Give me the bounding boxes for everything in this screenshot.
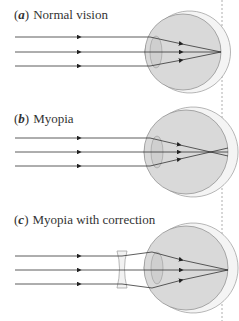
panel-c-myopia-with-correction: (c)Myopia with correction bbox=[14, 212, 238, 313]
panel-c-label: (c)Myopia with correction bbox=[14, 212, 156, 227]
panel-a-normal-vision: (a)Normal vision bbox=[14, 7, 231, 93]
panel-b-myopia: (b)Myopia bbox=[14, 107, 238, 197]
concave-corrective-lens-icon bbox=[117, 251, 127, 288]
vision-diagram: (a)Normal vision (b)Myopia bbox=[0, 0, 239, 321]
lens-icon bbox=[151, 252, 163, 284]
eye-icon bbox=[144, 223, 238, 313]
panel-b-label: (b)Myopia bbox=[14, 111, 74, 126]
panel-a-label: (a)Normal vision bbox=[14, 7, 108, 22]
